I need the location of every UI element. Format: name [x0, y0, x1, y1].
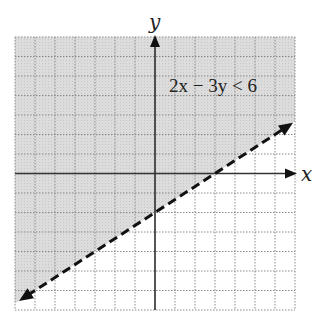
y-axis-label: y: [148, 10, 161, 34]
x-axis-label: x: [301, 162, 312, 186]
inequality-graph: y x 2x − 3y < 6: [0, 0, 330, 324]
inequality-label: 2x − 3y < 6: [169, 75, 257, 96]
